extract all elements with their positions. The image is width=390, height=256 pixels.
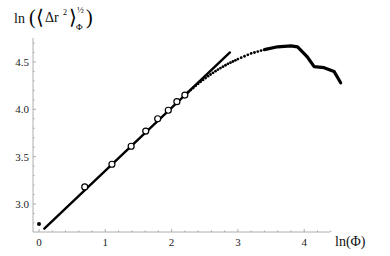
data-dot	[222, 65, 225, 68]
data-point-open	[155, 116, 161, 122]
data-dot	[243, 55, 246, 58]
x-tick-label: 1	[103, 236, 109, 248]
data-dot	[199, 80, 202, 83]
data-point-open	[82, 184, 88, 190]
angle-open: ⟨	[36, 6, 44, 28]
data-point-open	[128, 143, 134, 149]
y-tick-label: 4.5	[15, 56, 29, 68]
x-tick-label: 0	[36, 236, 42, 248]
data-dot	[253, 51, 256, 54]
data-dot	[227, 62, 230, 65]
data-dot	[260, 49, 263, 52]
data-dot	[209, 73, 212, 76]
x-tick-label: 4	[301, 236, 307, 248]
svg-text:½: ½	[77, 5, 84, 15]
y-tick-label: 3.5	[15, 151, 29, 163]
svg-text:Φ: Φ	[76, 22, 83, 32]
paren-open: (	[29, 6, 36, 29]
y-tick-label: 3.0	[15, 198, 29, 210]
svg-text:2: 2	[63, 8, 67, 17]
data-dot	[234, 59, 237, 62]
x-tick-label: 3	[235, 236, 241, 248]
data-dot	[207, 75, 210, 78]
data-dot	[192, 87, 195, 90]
data-dot	[232, 60, 235, 63]
data-dot	[240, 56, 243, 59]
data-dot	[187, 91, 190, 94]
x-axis-label: ln(Φ)	[335, 234, 366, 250]
ticks: 012343.03.54.04.5	[15, 43, 330, 248]
data-dot	[189, 89, 192, 92]
x-tick-label: 2	[169, 236, 175, 248]
data-dot	[224, 64, 227, 67]
data-dot	[237, 58, 240, 61]
data-dot	[212, 71, 215, 74]
data-point-open	[182, 92, 188, 98]
data-point	[37, 222, 41, 226]
data-dot	[217, 68, 220, 71]
svg-text:Δr: Δr	[45, 10, 59, 25]
data-dot	[219, 67, 222, 70]
data-point-open	[109, 161, 115, 167]
y-axis-label: ln ( ⟨ Δr 2 ⟩ ½ Φ )	[14, 5, 93, 32]
data-dot	[197, 82, 200, 85]
svg-text:ln: ln	[14, 11, 25, 26]
data-dot	[214, 70, 217, 73]
data-point-open	[165, 107, 171, 113]
chart: 012343.03.54.04.5 ln(Φ) ln ( ⟨ Δr 2 ⟩ ½ …	[0, 0, 390, 256]
fit-line	[44, 52, 230, 228]
data-point-open	[143, 128, 149, 134]
data-dot	[250, 52, 253, 55]
data-dot	[202, 79, 205, 82]
data-point-open	[174, 99, 180, 105]
data-dot	[229, 61, 232, 64]
data-dot	[246, 53, 249, 56]
plot-area	[37, 46, 341, 229]
paren-close: )	[86, 6, 93, 29]
data-curve	[264, 46, 340, 83]
data-dot	[256, 50, 259, 53]
axes	[33, 38, 330, 232]
data-dot	[204, 77, 207, 80]
data-dot	[194, 84, 197, 87]
y-tick-label: 4.0	[15, 103, 29, 115]
